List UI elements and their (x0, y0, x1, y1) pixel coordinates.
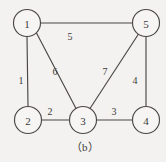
edge-weight-1-2: 1 (19, 75, 24, 86)
node-label-4: 4 (143, 115, 149, 127)
node-group (14, 10, 160, 134)
edge-weight-3-5: 7 (103, 66, 108, 77)
graph-figure: 5 1 6 7 4 2 3 1 5 2 3 4 （b） (0, 0, 166, 162)
graph-canvas: 5 1 6 7 4 2 3 1 5 2 3 4 （b） (0, 0, 166, 162)
edge-weight-1-3: 6 (53, 66, 58, 77)
figure-caption: （b） (71, 141, 100, 153)
node-label-5: 5 (143, 18, 149, 30)
edge-weight-group: 5 1 6 7 4 2 3 (19, 31, 138, 117)
edge-weight-5-4: 4 (133, 75, 138, 86)
edge-weight-1-5: 5 (68, 31, 73, 42)
node-label-2: 2 (25, 115, 31, 127)
edge-group (27, 23, 146, 120)
edge-1-2 (27, 37, 28, 107)
edge-3-5 (90, 34, 139, 109)
node-label-3: 3 (80, 115, 86, 127)
edge-weight-3-4: 3 (112, 106, 117, 117)
node-label-1: 1 (24, 18, 30, 30)
edge-weight-2-3: 2 (48, 106, 53, 117)
